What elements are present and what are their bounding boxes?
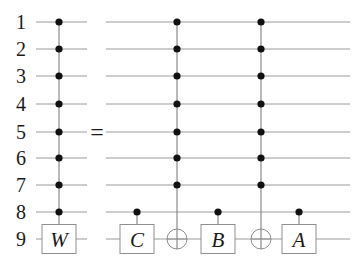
control-dot xyxy=(257,128,264,135)
control-dot xyxy=(55,128,62,135)
qubit-label: 6 xyxy=(16,147,26,169)
quantum-circuit-diagram: 123456789 W = CBA xyxy=(0,0,363,264)
control-dot xyxy=(133,208,140,215)
control-dot xyxy=(55,72,62,79)
controlled-gate-b: B xyxy=(201,208,235,253)
control-dot xyxy=(173,18,180,25)
control-dot xyxy=(173,45,180,52)
equals-sign: = xyxy=(90,119,104,145)
control-dot xyxy=(173,154,180,161)
lhs-circuit: W xyxy=(36,18,87,253)
qubit-label: 2 xyxy=(16,38,26,60)
qubit-label: 4 xyxy=(16,93,26,115)
control-dot xyxy=(173,72,180,79)
control-dot xyxy=(55,181,62,188)
qubit-label: 7 xyxy=(16,174,26,196)
control-dot xyxy=(295,208,302,215)
control-dot xyxy=(214,208,221,215)
toffoli-gate xyxy=(167,18,187,249)
control-dot xyxy=(55,45,62,52)
qubit-label: 3 xyxy=(16,65,26,87)
control-dot xyxy=(173,181,180,188)
gate-label: B xyxy=(212,228,225,252)
control-dot xyxy=(55,18,62,25)
control-dot xyxy=(55,208,62,215)
controlled-gate-w: W xyxy=(42,18,76,253)
controlled-gate-a: A xyxy=(282,208,316,253)
control-dot xyxy=(55,100,62,107)
qubit-label: 1 xyxy=(16,11,26,33)
control-dot xyxy=(173,100,180,107)
qubit-label: 8 xyxy=(16,201,26,223)
gate-label: C xyxy=(130,228,145,252)
control-dot xyxy=(257,154,264,161)
control-dot xyxy=(173,128,180,135)
qubit-label: 9 xyxy=(16,228,26,250)
toffoli-gate xyxy=(251,18,271,249)
control-dot xyxy=(257,18,264,25)
controlled-gate-c: C xyxy=(120,208,154,253)
rhs-circuit: CBA xyxy=(106,18,350,253)
control-dot xyxy=(257,45,264,52)
gate-label: W xyxy=(50,228,70,252)
control-dot xyxy=(257,72,264,79)
control-dot xyxy=(257,181,264,188)
qubit-label: 5 xyxy=(16,121,26,143)
qubit-labels: 123456789 xyxy=(16,11,26,250)
control-dot xyxy=(55,154,62,161)
gate-label: A xyxy=(291,228,306,252)
control-dot xyxy=(257,100,264,107)
